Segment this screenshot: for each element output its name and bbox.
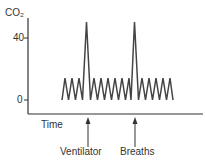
- ventilator-annotation: Ventilator: [60, 146, 102, 157]
- x-axis-label: Time: [41, 119, 63, 130]
- ytick-label-40: 40: [13, 32, 24, 43]
- chart-canvas: [0, 0, 205, 162]
- breaths-arrowhead-icon: [133, 117, 138, 124]
- ytick-label-0: 0: [17, 94, 23, 105]
- ventilator-arrowhead-icon: [86, 117, 91, 124]
- co2-waveform: [62, 22, 173, 100]
- breaths-annotation: Breaths: [120, 146, 154, 157]
- y-axis-label: CO₂: [5, 7, 24, 18]
